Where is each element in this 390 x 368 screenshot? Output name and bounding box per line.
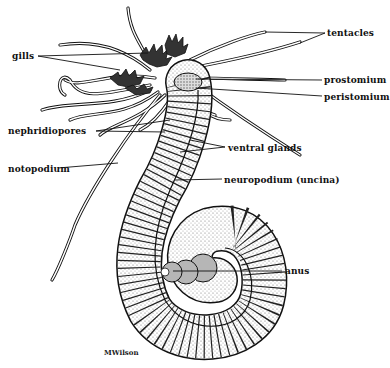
label-neuropodium: neuropodium (uncina) [224,175,340,185]
label-prostomium: prostomium [324,75,386,85]
label-peristomium: peristomium [324,92,390,102]
label-nephridiopores: nephridiopores [8,126,86,136]
label-anus: anus [285,266,309,276]
artist-signature: MWilson [104,348,139,357]
label-notopodium: notopodium [8,164,70,174]
label-ventral-glands: ventral glands [228,143,302,153]
label-tentacles: tentacles [327,28,374,38]
label-gills: gills [12,51,34,61]
